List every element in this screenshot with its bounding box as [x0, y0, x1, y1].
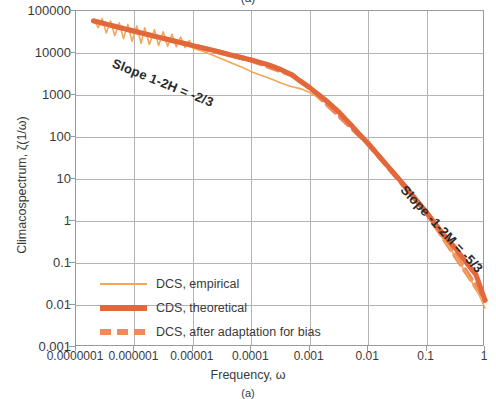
legend-label: CDS, theoretical: [156, 301, 247, 315]
y-tick-label: 10000: [35, 45, 71, 60]
y-tick-label: 1000: [42, 87, 71, 102]
series-line: [94, 21, 485, 300]
legend-item[interactable]: DCS, empirical: [100, 272, 321, 296]
x-tick-label: 0.0000001: [47, 349, 104, 363]
series-line: [94, 21, 485, 300]
series-line: [94, 19, 485, 308]
x-tick-label: 0.01: [355, 349, 378, 363]
x-tick-mark: [192, 346, 193, 351]
x-axis-title: Frequency, ω: [0, 368, 496, 382]
x-tick-mark: [367, 346, 368, 351]
legend-swatch-icon: [100, 329, 147, 335]
x-tick-label: 0.001: [294, 349, 324, 363]
y-tick-label: 0.01: [46, 297, 71, 312]
legend-label: DCS, empirical: [156, 277, 239, 291]
x-tick-label: 0.00001: [170, 349, 213, 363]
x-tick-mark: [133, 346, 134, 351]
y-tick-label: 100000: [28, 3, 71, 18]
figure-caption-bottom: (a): [0, 387, 496, 399]
x-tick-label: 0.1: [417, 349, 434, 363]
legend-item[interactable]: DCS, after adaptation for bias: [100, 320, 321, 344]
figure-caption-top: (a): [0, 0, 496, 5]
legend-item[interactable]: CDS, theoretical: [100, 296, 321, 320]
x-tick-mark: [484, 346, 485, 351]
x-tick-mark: [426, 346, 427, 351]
y-axis-title: Climacospectrum, ζ(1/ω): [15, 85, 29, 285]
legend-swatch-icon: [100, 301, 147, 315]
y-tick-label: 100: [49, 129, 71, 144]
x-tick-label: 0.0001: [232, 349, 269, 363]
x-tick-label: 1: [481, 349, 488, 363]
x-tick-label: 0.000001: [108, 349, 158, 363]
x-tick-mark: [309, 346, 310, 351]
legend-swatch-icon: [100, 277, 147, 291]
x-tick-mark: [75, 346, 76, 351]
legend-label: DCS, after adaptation for bias: [156, 325, 321, 339]
legend: DCS, empiricalCDS, theoreticalDCS, after…: [100, 272, 321, 344]
x-tick-mark: [250, 346, 251, 351]
